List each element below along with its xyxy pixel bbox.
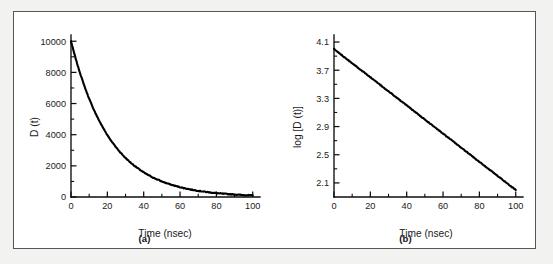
y-tick-label: 6000 <box>46 99 66 109</box>
y-tick-label: 3.7 <box>316 66 329 76</box>
x-tick-labels-a: 020406080100 <box>68 201 260 211</box>
y-tick-label: 4000 <box>46 130 66 140</box>
y-ticks-a <box>71 41 77 197</box>
x-tick-label: 100 <box>245 201 260 211</box>
chart-b-svg: 2.12.52.93.33.74.1 020406080100 Time (ns… <box>275 12 536 250</box>
y-tick-label: 2.1 <box>316 178 329 188</box>
x-tick-label: 40 <box>402 201 412 211</box>
x-tick-label: 0 <box>331 201 336 211</box>
panel-caption-b: (b) <box>275 233 536 244</box>
x-tick-label: 100 <box>508 201 523 211</box>
panel-a: 0200040006000800010000 020406080100 Time… <box>14 12 275 250</box>
figure-frame: 0200040006000800010000 020406080100 Time… <box>13 11 536 249</box>
y-tick-label: 3.3 <box>316 94 329 104</box>
y-tick-label: 10000 <box>40 37 66 47</box>
x-tick-label: 20 <box>102 201 112 211</box>
y-tick-label: 0 <box>61 192 66 202</box>
chart-a-svg: 0200040006000800010000 020406080100 Time… <box>14 12 275 250</box>
y-axis-title-a: D (t) <box>29 117 40 137</box>
y-tick-labels-a: 0200040006000800010000 <box>40 37 66 203</box>
y-tick-label: 2.9 <box>316 122 329 132</box>
y-tick-label: 2.5 <box>316 150 329 160</box>
y-tick-label: 8000 <box>46 68 66 78</box>
decay-curve-a <box>71 41 253 195</box>
chart-a-axes <box>71 35 260 197</box>
y-axis-title-b: log [D (t)] <box>292 106 303 148</box>
x-tick-label: 20 <box>365 201 375 211</box>
x-tick-label: 0 <box>68 201 73 211</box>
decay-curve-b <box>334 49 516 190</box>
y-tick-label: 2000 <box>46 161 66 171</box>
x-tick-label: 80 <box>211 201 221 211</box>
x-tick-label: 60 <box>438 201 448 211</box>
x-tick-label: 60 <box>175 201 185 211</box>
x-ticks-b <box>334 192 516 198</box>
y-tick-label: 4.1 <box>316 37 329 47</box>
panel-b: 2.12.52.93.33.74.1 020406080100 Time (ns… <box>275 12 536 250</box>
panel-caption-a: (a) <box>14 233 275 244</box>
y-ticks-b <box>334 42 340 183</box>
x-tick-label: 80 <box>474 201 484 211</box>
x-tick-labels-b: 020406080100 <box>331 201 523 211</box>
y-tick-labels-b: 2.12.52.93.33.74.1 <box>316 37 329 188</box>
x-tick-label: 40 <box>139 201 149 211</box>
